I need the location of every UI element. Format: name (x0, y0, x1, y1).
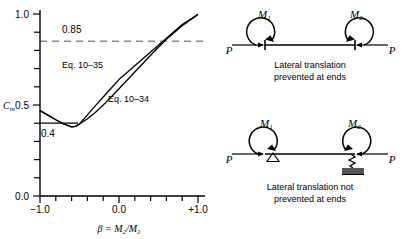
moment-m1-arrowhead-bottom (267, 145, 276, 152)
moment-m1-sub-top: 1 (267, 14, 271, 22)
y-tick-label-05: 0.5 (15, 100, 29, 111)
x-axis-ticks (40, 196, 198, 203)
braced-caption-line2: prevented at ends (274, 72, 347, 82)
moment-m2-arrowhead-bottom (344, 145, 353, 152)
axial-load-left-top-label: P (225, 44, 233, 56)
axial-load-right-bottom-label: P (388, 153, 396, 165)
moment-m1-label-top: M1 (257, 8, 271, 22)
floor-04-label: 0.4 (41, 128, 55, 139)
eq-10-34-label: Eq. 10–34 (108, 94, 149, 104)
moment-m1-sub-bottom: 1 (269, 123, 273, 131)
unbraced-caption-line2: prevented at ends (274, 194, 347, 204)
axial-load-right-bottom-arrow (356, 151, 362, 156)
chart-panel: 1.0 0.5 0.0 −1.0 0.0 +1.0 Cm β = M2/M1 0… (0, 0, 210, 239)
chart-svg: 1.0 0.5 0.0 −1.0 0.0 +1.0 Cm β = M2/M1 0… (0, 0, 210, 239)
spring-roller-support (349, 154, 355, 168)
axial-load-right-top-arrow (356, 42, 362, 47)
x-tick-label-0: 0.0 (112, 204, 126, 215)
braced-caption-line1: Lateral translation (274, 60, 346, 70)
y-tick-label-0: 0.0 (15, 191, 29, 202)
unbraced-frame-diagram: P P M1 M2 Lateral translation not preven… (225, 117, 396, 204)
ground-hatch-base (342, 168, 364, 174)
eq-10-35-label: Eq. 10–35 (62, 60, 103, 70)
y-axis-title: Cm (3, 100, 15, 113)
moment-m2-label-bottom: M2 (347, 117, 361, 131)
axial-load-left-top-arrow (258, 42, 264, 47)
y-tick-label-1: 1.0 (15, 9, 29, 20)
moment-m2-sub-top: 2 (359, 14, 363, 22)
y-axis-ticks (33, 14, 40, 196)
moment-m2-sub-bottom: 2 (357, 123, 361, 131)
moment-m2-label-top: M2 (349, 8, 363, 22)
unbraced-caption-line1: Lateral translation not (267, 182, 354, 192)
x-tick-label-pos1: +1.0 (188, 204, 208, 215)
limit-085-label: 0.85 (62, 24, 82, 35)
x-tick-label-neg1: −1.0 (30, 204, 50, 215)
axial-load-right-top-label: P (388, 44, 396, 56)
diagram-svg: P P M1 M2 Lateral translation prevented … (210, 0, 406, 239)
x-axis-title: β = M2/M1 (96, 223, 140, 236)
figure-root: 1.0 0.5 0.0 −1.0 0.0 +1.0 Cm β = M2/M1 0… (0, 0, 406, 239)
braced-frame-diagram: P P M1 M2 Lateral translation prevented … (225, 8, 396, 82)
axial-load-left-bottom-arrow (258, 151, 264, 156)
axial-load-left-bottom-label: P (225, 153, 233, 165)
moment-m1-label-bottom: M1 (259, 117, 273, 131)
diagram-panel: P P M1 M2 Lateral translation prevented … (210, 0, 406, 239)
